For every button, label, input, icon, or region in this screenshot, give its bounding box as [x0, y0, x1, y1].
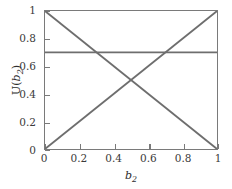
y-tick-mark-0 — [45, 150, 50, 151]
y-tick-label-1: 0.2 — [19, 117, 36, 128]
x-tick-mark-5 — [218, 144, 219, 149]
x-tick-label-3: 0.6 — [140, 153, 157, 164]
y-axis-label-subscript: 2 — [16, 69, 25, 74]
x-tick-label-0: 0 — [41, 153, 48, 164]
y-axis-label: U(b2) — [11, 65, 25, 95]
y-tick-label-5: 1 — [29, 5, 36, 16]
x-tick-label-1: 0.2 — [70, 153, 87, 164]
x-tick-label-2: 0.4 — [105, 153, 122, 164]
plot-area — [44, 10, 218, 150]
y-axis-label-prefix: U( — [10, 81, 23, 95]
x-axis-label-symbol: b — [125, 169, 132, 182]
y-tick-label-4: 0.8 — [19, 33, 36, 44]
y-axis-label-suffix: ) — [10, 65, 23, 69]
y-tick-label-0: 0 — [29, 145, 36, 156]
utility-plot-figure: 0 0.2 0.4 0.6 0.8 1 0 0.2 0.4 0.6 0.8 1 … — [0, 0, 232, 189]
y-axis-label-symbol: b — [10, 74, 23, 81]
x-axis-label: b2 — [125, 170, 137, 184]
x-tick-label-5: 1 — [215, 153, 222, 164]
x-tick-label-4: 0.8 — [175, 153, 192, 164]
data-lines-layer — [45, 11, 217, 149]
x-axis-label-subscript: 2 — [132, 175, 137, 184]
